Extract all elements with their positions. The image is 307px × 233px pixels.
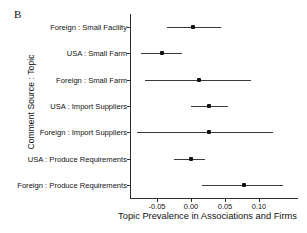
y-tick-mark — [127, 132, 130, 133]
category-label: USA : Import Suppliers — [50, 102, 127, 111]
y-tick-mark — [127, 159, 130, 160]
category-label: USA : Small Farm — [67, 49, 127, 58]
category-label: Foreign : Import Suppliers — [40, 128, 127, 137]
x-tick-label: -0.05 — [149, 202, 166, 211]
x-tick-label: 0.10 — [252, 202, 266, 211]
estimate-point — [191, 25, 195, 29]
x-tick-label: 0.00 — [184, 202, 198, 211]
y-tick-mark — [127, 27, 130, 28]
y-tick-mark — [127, 185, 130, 186]
estimate-point — [207, 130, 211, 134]
y-tick-mark — [127, 80, 130, 81]
category-label: USA : Produce Requirements — [28, 154, 127, 163]
category-label: Foreign : Produce Requirements — [17, 180, 127, 189]
forest-plot-figure: B Comment Source : Topic Foreign : Small… — [0, 0, 307, 233]
y-tick-mark — [127, 53, 130, 54]
estimate-point — [242, 183, 246, 187]
estimate-point — [189, 157, 193, 161]
x-axis-title: Topic Prevalence in Associations and Fir… — [110, 211, 305, 221]
estimate-point — [160, 51, 164, 55]
x-tick-label: 0.05 — [218, 202, 232, 211]
y-tick-mark — [127, 106, 130, 107]
estimate-point — [197, 78, 201, 82]
category-label: Foreign : Small Farm — [56, 75, 127, 84]
estimate-point — [207, 104, 211, 108]
panel-label: B — [14, 9, 21, 20]
category-label: Foreign : Small Facility — [50, 23, 127, 32]
x-axis-line — [130, 198, 298, 199]
confidence-interval-line — [137, 132, 272, 133]
